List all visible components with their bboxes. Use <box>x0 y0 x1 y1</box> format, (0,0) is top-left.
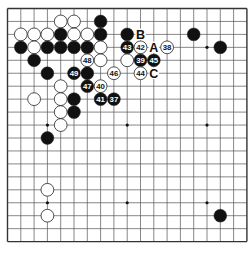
white-stone <box>41 209 54 222</box>
white-stone-46: 46 <box>108 67 121 80</box>
black-stone-39: 39 <box>134 54 147 67</box>
black-stone <box>54 28 67 41</box>
black-stone <box>81 41 94 54</box>
move-number: 38 <box>163 43 172 52</box>
black-stone <box>41 67 54 80</box>
stones-layer: 43423848394549464447404137 <box>14 15 226 222</box>
black-stone <box>28 54 41 67</box>
black-stone <box>121 28 134 41</box>
white-stone-38: 38 <box>161 41 174 54</box>
black-stone <box>68 106 81 119</box>
black-stone <box>187 28 200 41</box>
black-stone <box>94 15 107 28</box>
white-stone <box>81 28 94 41</box>
black-stone-43: 43 <box>121 41 134 54</box>
move-number: 44 <box>136 69 145 78</box>
black-stone <box>214 41 227 54</box>
star-point <box>46 123 49 126</box>
black-stone <box>214 209 227 222</box>
white-stone <box>54 119 67 132</box>
black-stone-45: 45 <box>147 54 160 67</box>
star-point <box>46 201 49 204</box>
white-stone <box>54 80 67 93</box>
black-stone <box>14 41 27 54</box>
white-stone <box>68 15 81 28</box>
move-number: 43 <box>123 43 132 52</box>
white-stone <box>41 183 54 196</box>
white-stone-44: 44 <box>134 67 147 80</box>
white-stone <box>121 54 134 67</box>
white-stone-48: 48 <box>81 54 94 67</box>
go-board[interactable]: 43423848394549464447404137 BAC <box>0 0 252 258</box>
black-stone <box>41 41 54 54</box>
black-stone <box>41 132 54 145</box>
black-stone-47: 47 <box>81 80 94 93</box>
move-number: 47 <box>83 82 92 91</box>
black-stone <box>54 41 67 54</box>
star-point <box>126 123 129 126</box>
white-stone <box>94 41 107 54</box>
move-number: 41 <box>96 95 105 104</box>
move-number: 46 <box>110 69 119 78</box>
white-stone <box>54 106 67 119</box>
white-stone-40: 40 <box>94 80 107 93</box>
white-stone <box>41 28 54 41</box>
white-stone <box>54 15 67 28</box>
point-label-a: A <box>149 41 158 55</box>
white-stone <box>28 93 41 106</box>
white-stone <box>94 54 107 67</box>
star-point <box>205 46 208 49</box>
white-stone <box>14 28 27 41</box>
star-point <box>205 201 208 204</box>
black-stone <box>68 41 81 54</box>
point-label-b: B <box>136 28 145 42</box>
move-number: 39 <box>136 56 145 65</box>
white-stone <box>28 41 41 54</box>
move-number: 40 <box>96 82 105 91</box>
white-stone <box>28 28 41 41</box>
white-stone <box>54 93 67 106</box>
move-number: 37 <box>110 95 119 104</box>
black-stone-49: 49 <box>68 67 81 80</box>
point-label-c: C <box>149 67 158 81</box>
star-point <box>126 201 129 204</box>
black-stone-41: 41 <box>94 93 107 106</box>
white-stone <box>68 28 81 41</box>
black-stone <box>81 67 94 80</box>
move-number: 42 <box>136 43 145 52</box>
white-stone-42: 42 <box>134 41 147 54</box>
star-point <box>205 123 208 126</box>
move-number: 48 <box>83 56 92 65</box>
move-number: 45 <box>149 56 158 65</box>
black-stone-37: 37 <box>108 93 121 106</box>
black-stone <box>94 28 107 41</box>
black-stone <box>68 93 81 106</box>
move-number: 49 <box>70 69 79 78</box>
